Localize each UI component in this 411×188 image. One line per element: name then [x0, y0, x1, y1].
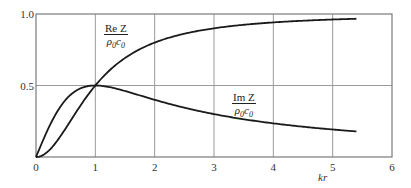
x-tick-label: 4 [271, 161, 277, 173]
impedance-chart: 01234560.51.0 [0, 0, 411, 188]
im-z-curve [36, 86, 356, 158]
y-tick-label: 0.5 [20, 80, 34, 92]
x-tick-label: 6 [389, 161, 395, 173]
x-axis-label: kr [318, 171, 327, 183]
re-z-label: Re Z ρ0c0 [104, 22, 128, 52]
x-tick-label: 1 [93, 161, 99, 173]
y-tick-label: 1.0 [20, 8, 34, 20]
re-z-label-denominator: ρ0c0 [104, 35, 128, 52]
im-z-label-denominator: ρ0c0 [232, 104, 256, 121]
re-z-label-numerator: Re Z [104, 22, 128, 35]
x-tick-label: 0 [33, 161, 39, 173]
im-z-label-numerator: Im Z [232, 91, 256, 104]
x-tick-label: 3 [211, 161, 217, 173]
im-z-label: Im Z ρ0c0 [232, 91, 256, 121]
x-tick-label: 5 [330, 161, 336, 173]
x-tick-label: 2 [152, 161, 158, 173]
